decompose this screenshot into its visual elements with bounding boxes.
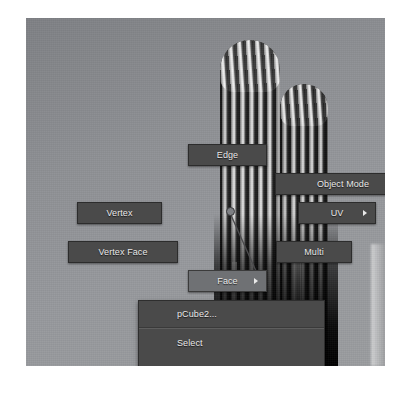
marking-menu-item-label: Edge <box>217 151 238 160</box>
screenshot-root: Edge Object Mode Vertex UV Vertex Face M… <box>0 0 411 394</box>
context-menu-title: pCube2... <box>139 301 324 327</box>
submenu-arrow-icon <box>254 278 258 284</box>
marking-menu-item-label: UV <box>331 209 344 218</box>
marking-menu-item-label: Vertex Face <box>98 248 147 257</box>
marking-menu-item-label: Multi <box>304 248 324 257</box>
submenu-arrow-icon <box>363 210 367 216</box>
context-menu-item-select-all[interactable]: Select All <box>139 357 324 366</box>
marking-menu-item-multi[interactable]: Multi <box>276 241 352 263</box>
marking-menu-item-uv[interactable]: UV <box>298 202 376 224</box>
marking-menu-item-label: Face <box>217 277 237 286</box>
marking-menu-item-edge[interactable]: Edge <box>188 144 267 166</box>
marking-menu-item-label: Vertex <box>106 209 132 218</box>
marking-menu-item-vertex[interactable]: Vertex <box>77 202 162 224</box>
context-menu[interactable]: pCube2... Select Select All <box>138 300 325 366</box>
marking-menu-item-face[interactable]: Face <box>188 270 267 292</box>
viewport-3d[interactable]: Edge Object Mode Vertex UV Vertex Face M… <box>26 18 385 366</box>
context-menu-item-select[interactable]: Select <box>139 329 324 357</box>
marking-menu-item-vertex-face[interactable]: Vertex Face <box>68 241 178 263</box>
marking-menu-origin-dot <box>226 207 235 216</box>
marking-menu-item-object-mode[interactable]: Object Mode <box>275 173 385 195</box>
marking-menu-item-label: Object Mode <box>317 180 369 189</box>
